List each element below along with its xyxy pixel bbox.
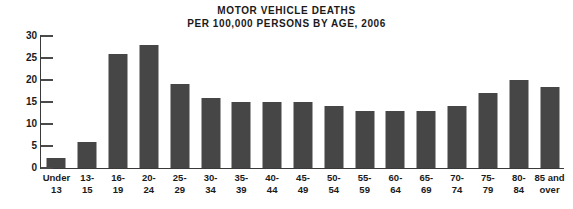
y-axis-tick — [41, 101, 53, 102]
y-axis-labels: 051015202530 — [0, 0, 37, 209]
x-axis-label-line: 19 — [103, 184, 134, 196]
y-axis-tick — [41, 145, 53, 146]
bar[interactable] — [355, 111, 374, 168]
bar[interactable] — [139, 45, 158, 168]
bar[interactable] — [417, 111, 436, 168]
bar[interactable] — [478, 93, 497, 168]
x-axis-label-line: 13 — [41, 184, 72, 196]
y-axis-tick — [41, 79, 53, 80]
x-axis-tick-label: 30-34 — [195, 172, 226, 195]
x-axis-label-line: 35- — [226, 172, 257, 184]
x-axis-label-line: 44 — [257, 184, 288, 196]
bar-slot — [318, 36, 349, 168]
bar-slot — [411, 36, 442, 168]
x-axis-label-line: 75- — [473, 172, 504, 184]
x-axis-tick-label: Under13 — [41, 172, 72, 195]
bar-slot — [133, 36, 164, 168]
x-axis-tick-label: 85 andover — [534, 172, 565, 195]
bar[interactable] — [170, 84, 189, 168]
x-axis-tick-label: 25-29 — [164, 172, 195, 195]
chart-page: MOTOR VEHICLE DEATHS PER 100,000 PERSONS… — [0, 0, 573, 209]
y-axis-tick-label: 0 — [3, 162, 37, 173]
x-axis-label-line: 55- — [349, 172, 380, 184]
y-axis-tick-label: 10 — [3, 118, 37, 129]
x-axis-label-line: 50- — [318, 172, 349, 184]
bar-slot — [226, 36, 257, 168]
bar[interactable] — [386, 111, 405, 168]
y-axis-tick — [41, 167, 53, 168]
x-axis-tick-label: 35-39 — [226, 172, 257, 195]
x-axis-label-line: 34 — [195, 184, 226, 196]
x-axis-label-line: 29 — [164, 184, 195, 196]
bar[interactable] — [448, 106, 467, 168]
x-axis-tick-label: 13-15 — [72, 172, 103, 195]
chart-title-line-2: PER 100,000 PERSONS BY AGE, 2006 — [0, 18, 573, 31]
x-axis-tick-label: 80-84 — [503, 172, 534, 195]
x-axis-label-line: 65- — [411, 172, 442, 184]
y-axis-tick-label: 15 — [3, 96, 37, 107]
y-axis-tick — [41, 57, 53, 58]
bar[interactable] — [540, 87, 559, 168]
bar[interactable] — [109, 54, 128, 168]
y-axis-tick — [41, 35, 53, 36]
bar[interactable] — [201, 98, 220, 168]
bar-slot — [349, 36, 380, 168]
bar-slot — [534, 36, 565, 168]
bar-slot — [103, 36, 134, 168]
bar-slot — [473, 36, 504, 168]
x-axis-label-line: 40- — [257, 172, 288, 184]
x-axis-tick-label: 16-19 — [103, 172, 134, 195]
bar[interactable] — [263, 102, 282, 168]
bar-series — [41, 36, 565, 168]
bar-slot — [195, 36, 226, 168]
x-axis-label-line: over — [534, 184, 565, 196]
bar-slot — [288, 36, 319, 168]
x-axis-tick-label: 65-69 — [411, 172, 442, 195]
bar-slot — [72, 36, 103, 168]
x-axis-labels: Under1313-1516-1920-2425-2930-3435-3940-… — [41, 172, 565, 208]
x-axis-label-line: 25- — [164, 172, 195, 184]
x-axis-label-line: 80- — [503, 172, 534, 184]
bar-slot — [503, 36, 534, 168]
y-axis-tick-label: 30 — [3, 30, 37, 41]
x-axis-label-line: 54 — [318, 184, 349, 196]
x-axis-label-line: 15 — [72, 184, 103, 196]
x-axis-label-line: 13- — [72, 172, 103, 184]
x-axis-label-line: Under — [41, 172, 72, 184]
bar[interactable] — [293, 102, 312, 168]
x-axis-tick-label: 45-49 — [288, 172, 319, 195]
bar[interactable] — [78, 142, 97, 168]
y-axis-tick-label: 5 — [3, 140, 37, 151]
x-axis-tick-label: 40-44 — [257, 172, 288, 195]
y-axis-tick-label: 20 — [3, 74, 37, 85]
x-axis-tick-label: 60-64 — [380, 172, 411, 195]
x-axis-label-line: 20- — [133, 172, 164, 184]
x-axis-label-line: 24 — [133, 184, 164, 196]
x-axis-label-line: 16- — [103, 172, 134, 184]
x-axis-label-line: 85 and — [534, 172, 565, 184]
x-axis-tick-label: 55-59 — [349, 172, 380, 195]
x-axis-tick-label: 75-79 — [473, 172, 504, 195]
x-axis-label-line: 84 — [503, 184, 534, 196]
x-axis-label-line: 49 — [288, 184, 319, 196]
x-axis-label-line: 39 — [226, 184, 257, 196]
x-axis-line — [40, 168, 564, 169]
chart-title: MOTOR VEHICLE DEATHS PER 100,000 PERSONS… — [0, 5, 573, 30]
bar[interactable] — [509, 80, 528, 168]
x-axis-label-line: 79 — [473, 184, 504, 196]
bar[interactable] — [232, 102, 251, 168]
x-axis-label-line: 74 — [442, 184, 473, 196]
bar-slot — [257, 36, 288, 168]
x-axis-label-line: 64 — [380, 184, 411, 196]
bar-slot — [442, 36, 473, 168]
x-axis-label-line: 30- — [195, 172, 226, 184]
bar-slot — [164, 36, 195, 168]
y-axis-tick-label: 25 — [3, 52, 37, 63]
x-axis-label-line: 60- — [380, 172, 411, 184]
chart-title-line-1: MOTOR VEHICLE DEATHS — [0, 5, 573, 18]
x-axis-label-line: 70- — [442, 172, 473, 184]
x-axis-tick-label: 20-24 — [133, 172, 164, 195]
x-axis-tick-label: 50-54 — [318, 172, 349, 195]
bar[interactable] — [324, 106, 343, 168]
x-axis-label-line: 59 — [349, 184, 380, 196]
